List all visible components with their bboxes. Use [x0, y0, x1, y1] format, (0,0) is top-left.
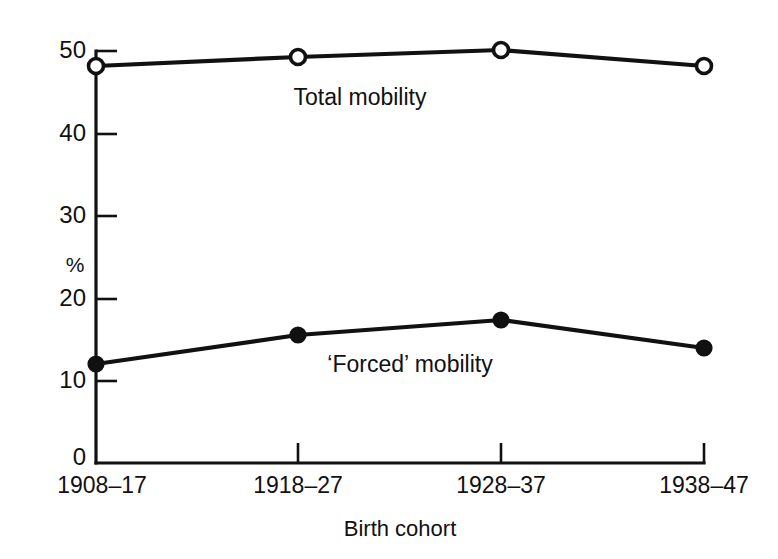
- data-point-total-mobility-1908-17: [89, 59, 104, 74]
- line-chart: 50 40 30 20 10 0 % 1908–17 1918–27 1928–…: [0, 0, 778, 559]
- data-point-forced-mobility-1928-37: [494, 313, 508, 327]
- y-tick-label-10: 10: [59, 366, 86, 393]
- y-tick-label-50: 50: [59, 36, 86, 63]
- data-point-total-mobility-1938-47: [697, 59, 712, 74]
- y-tick-label-40: 40: [59, 119, 86, 146]
- y-tick-label-0: 0: [73, 443, 86, 470]
- y-tick-label-20: 20: [59, 284, 86, 311]
- data-point-total-mobility-1928-37: [494, 43, 509, 58]
- data-point-forced-mobility-1908-17: [89, 357, 103, 371]
- x-axis-ticks: [298, 443, 704, 463]
- series-label-total-mobility: Total mobility: [294, 84, 427, 110]
- data-point-forced-mobility-1938-47: [697, 341, 711, 355]
- x-axis-title: Birth cohort: [344, 516, 457, 541]
- x-tick-label-1928-37: 1928–37: [456, 472, 546, 498]
- series-label-forced-mobility: ‘Forced’ mobility: [327, 351, 493, 377]
- x-tick-label-1938-47: 1938–47: [659, 472, 749, 498]
- data-point-total-mobility-1918-27: [291, 50, 306, 65]
- chart-figure: 50 40 30 20 10 0 % 1908–17 1918–27 1928–…: [0, 0, 778, 559]
- y-tick-label-30: 30: [59, 201, 86, 228]
- series-line-total-mobility: [96, 50, 704, 66]
- x-axis-tick-labels: 1908–17 1918–27 1928–37 1938–47: [57, 472, 749, 498]
- data-point-forced-mobility-1918-27: [291, 328, 305, 342]
- series-total-mobility: [89, 43, 712, 74]
- x-tick-label-1908-17: 1908–17: [57, 472, 147, 498]
- y-axis-ticks: [96, 51, 117, 381]
- y-axis-title: %: [66, 253, 85, 276]
- x-tick-label-1918-27: 1918–27: [253, 472, 343, 498]
